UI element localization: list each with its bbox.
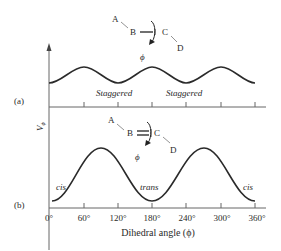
phi-symbol: ϕ [140,52,145,62]
annotation-staggered-2: Staggered [166,88,203,98]
y-axis-label: Vϕ [35,122,46,131]
atom-c: C [162,27,168,37]
phi-symbol: ϕ [135,152,140,162]
panel-a-label: (a) [14,96,24,106]
atom-d: D [170,145,177,155]
rotation-arrow-icon [147,122,151,143]
panel-b-bond-diagram: A B C D ϕ [108,115,177,162]
tick-180: 180° [143,213,161,223]
panel-a-x-axis [49,102,266,107]
panel-a-potential-curve [49,67,255,83]
tick-120: 120° [109,213,127,223]
atom-a: A [112,14,119,24]
dihedral-potential-figure: Staggered Staggered (a) A B C D ϕ Vϕ cis… [0,0,281,251]
tick-240: 240° [178,213,196,223]
annotation-staggered-1: Staggered [96,88,133,98]
tick-300: 300° [213,213,231,223]
x-tick-labels: 0° 60° 120° 180° 240° 300° 360° [45,213,266,223]
panel-b-label: (b) [14,200,25,210]
annotation-cis-left: cis [56,182,66,192]
panel-b-potential-curve [52,148,255,201]
atom-a: A [108,115,115,125]
atom-d: D [177,43,184,53]
x-axis-label: Dihedral angle (ϕ) [121,227,195,239]
panel-a-bond-diagram: A B C D ϕ [112,14,184,62]
annotation-cis-right: cis [243,182,253,192]
atom-b: B [130,27,136,37]
tick-60: 60° [78,213,91,223]
atom-b: B [127,128,133,138]
atom-c: C [154,128,160,138]
annotation-trans: trans [140,182,159,192]
tick-360: 360° [248,213,266,223]
tick-0: 0° [45,213,54,223]
panel-b-x-axis [49,203,266,208]
y-axis-arrow-icon [47,43,52,51]
